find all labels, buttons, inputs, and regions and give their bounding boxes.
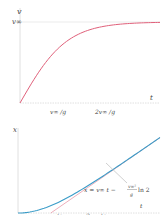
figure: v v∞ t v∞ /g 2v∞ /g x t x = v∞ t − v∞² g…: [0, 0, 166, 215]
tick-label-2: 2v∞ /g: [94, 108, 115, 116]
position-chart: x t x = v∞ t − v∞² g ln 2 v∞ /g 2v∞ /g: [13, 126, 160, 215]
formula-lhs: x = v∞ t −: [84, 186, 116, 193]
tick-label-1: v∞ /g: [46, 212, 62, 215]
tick-label-2: 2v∞ /g: [85, 212, 106, 215]
t-axis-label: t: [140, 202, 143, 209]
v-terminal-label: v∞: [12, 18, 22, 26]
tick-label-1: v∞ /g: [50, 108, 66, 116]
velocity-curve: [20, 22, 160, 103]
formula-denominator: g: [130, 192, 133, 197]
t-axis-label: t: [150, 94, 153, 102]
x-axis-label: x: [13, 126, 17, 134]
formula-tail: ln 2: [138, 186, 150, 193]
position-curve: [18, 138, 160, 214]
formula-numerator: v∞²: [128, 184, 136, 189]
velocity-chart: v v∞ t v∞ /g 2v∞ /g: [12, 7, 160, 116]
v-axis-label: v: [17, 7, 22, 16]
